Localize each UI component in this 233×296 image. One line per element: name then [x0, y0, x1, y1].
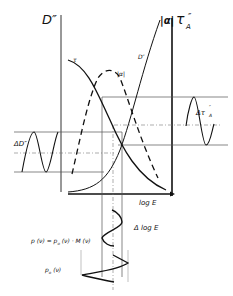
delta-d-wave — [22, 132, 58, 172]
diagram: D″ |α| τ A ″ τ |α| D″ log E ΔD″ Δτ A ″ Δ… — [0, 0, 233, 296]
x-axis-label: log E — [139, 199, 157, 207]
tau-axis-sup: ″ — [188, 12, 192, 22]
delta-tau-label: Δτ — [195, 109, 206, 117]
p0-wave — [82, 255, 128, 282]
alpha-axis-label: |α| — [160, 15, 174, 27]
p-wave — [102, 210, 122, 246]
delta-log-e-label: Δ log E — [133, 224, 159, 232]
delta-tau-sup: ″ — [209, 104, 211, 110]
tau-axis-label: τ — [176, 11, 185, 27]
p-formula-label: p (ν) = po (ν) · M (ν) — [30, 237, 91, 246]
tau-curve-label: τ — [73, 56, 77, 63]
alpha-curve-label: |α| — [117, 70, 125, 78]
delta-tau-subscript: A — [208, 113, 212, 118]
d-curve-label: D″ — [138, 53, 146, 60]
delta-d-label: ΔD″ — [13, 140, 27, 148]
d-axis-label: D″ — [42, 12, 57, 27]
p0-label: po (ν) — [44, 266, 61, 275]
tau-axis-subscript: A — [185, 23, 191, 31]
d-curve — [68, 20, 160, 192]
